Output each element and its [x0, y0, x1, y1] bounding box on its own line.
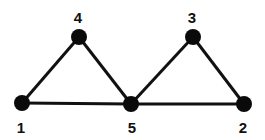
edge-5-3 [131, 37, 193, 104]
node-label-5: 5 [128, 119, 136, 136]
node-5 [123, 96, 139, 112]
labels: 12345 [17, 9, 247, 136]
node-label-3: 3 [188, 9, 196, 26]
edges [22, 37, 244, 104]
edge-4-5 [79, 37, 131, 104]
node-1 [14, 95, 30, 111]
node-label-4: 4 [74, 9, 83, 26]
node-label-2: 2 [239, 119, 247, 136]
node-4 [71, 29, 87, 45]
graph-diagram: 12345 [0, 0, 265, 140]
edge-1-4 [22, 37, 79, 103]
node-2 [236, 96, 252, 112]
edge-1-5 [22, 103, 131, 104]
edge-3-2 [193, 37, 244, 104]
node-label-1: 1 [17, 119, 25, 136]
node-3 [185, 29, 201, 45]
